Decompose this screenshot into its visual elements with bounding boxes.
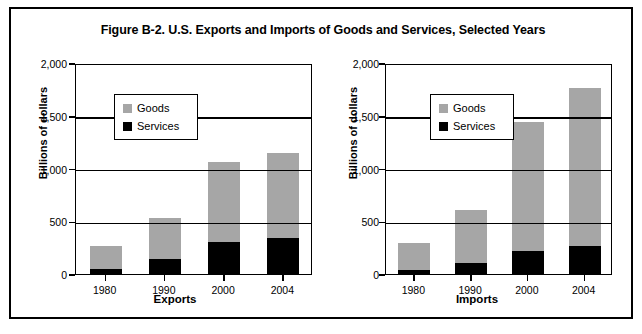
bar-segment-goods <box>455 210 487 263</box>
y-axis-tick-label: 1,000 <box>333 164 379 176</box>
bar-segment-goods <box>208 162 240 242</box>
legend-swatch-services-icon <box>439 122 448 131</box>
x-axis-tick <box>413 275 415 281</box>
x-axis-tick <box>164 275 166 281</box>
bar-segment-goods <box>90 246 122 269</box>
y-axis-tick <box>379 116 385 118</box>
y-axis-tick-label: 500 <box>25 216 67 228</box>
bar-segment-services <box>208 242 240 274</box>
x-axis-tick <box>584 275 586 281</box>
y-axis-tick-label: 500 <box>333 216 379 228</box>
stacked-bar <box>267 153 299 274</box>
legend-label-goods: Goods <box>137 103 169 114</box>
plot-area-exports: Goods Services <box>75 64 312 275</box>
x-axis-tick <box>282 275 284 281</box>
bar-segment-services <box>569 246 601 274</box>
legend-label-services: Services <box>137 121 179 132</box>
stacked-bar <box>149 218 181 274</box>
legend-imports: Goods Services <box>430 94 514 140</box>
legend-swatch-goods-icon <box>439 104 448 113</box>
figure-frame: Figure B-2. U.S. Exports and Imports of … <box>9 7 633 319</box>
x-axis-title-imports: Imports <box>327 293 627 305</box>
y-axis-tick <box>379 169 385 171</box>
chart-panel-exports: Billions of dollars Goods Services 05001… <box>25 49 325 313</box>
bar-segment-services <box>267 238 299 274</box>
y-axis-tick-label: 0 <box>333 269 379 281</box>
y-axis-tick <box>69 274 75 276</box>
y-axis-tick <box>69 222 75 224</box>
y-axis-tick-label: 1,500 <box>333 111 379 123</box>
gridline <box>386 223 611 225</box>
y-axis-title-imports: Billions of dollars <box>347 63 359 203</box>
stacked-bar <box>455 210 487 274</box>
y-axis-tick <box>69 116 75 118</box>
y-axis-tick <box>69 63 75 65</box>
legend-item-goods: Goods <box>439 101 504 116</box>
legend-item-services: Services <box>439 119 504 134</box>
legend-label-services: Services <box>453 121 495 132</box>
y-axis-tick-label: 2,000 <box>333 58 379 70</box>
bar-segment-services <box>149 259 181 274</box>
x-axis-tick <box>527 275 529 281</box>
bar-segment-services <box>455 263 487 274</box>
legend-label-goods: Goods <box>453 103 485 114</box>
stacked-bar <box>512 122 544 274</box>
figure-title: Figure B-2. U.S. Exports and Imports of … <box>11 23 635 37</box>
y-axis-tick <box>69 169 75 171</box>
chart-panel-imports: Billions of dollars Goods Services 05001… <box>327 49 627 313</box>
bar-segment-services <box>512 251 544 274</box>
y-axis-tick <box>379 274 385 276</box>
bar-segment-goods <box>267 153 299 238</box>
y-axis-tick <box>379 63 385 65</box>
y-axis-tick-label: 2,000 <box>25 58 67 70</box>
x-axis-tick <box>470 275 472 281</box>
gridline <box>76 170 311 172</box>
legend-exports: Goods Services <box>114 94 198 140</box>
legend-swatch-services-icon <box>123 122 132 131</box>
y-axis-tick <box>379 222 385 224</box>
stacked-bar <box>90 246 122 274</box>
bar-segment-services <box>90 269 122 274</box>
bar-segment-goods <box>512 122 544 252</box>
x-axis-tick <box>223 275 225 281</box>
y-axis-tick-label: 1,500 <box>25 111 67 123</box>
x-axis-tick <box>105 275 107 281</box>
y-axis-tick-label: 0 <box>25 269 67 281</box>
legend-item-goods: Goods <box>123 101 188 116</box>
x-axis-title-exports: Exports <box>25 293 325 305</box>
stacked-bar <box>398 243 430 274</box>
legend-item-services: Services <box>123 119 188 134</box>
gridline <box>76 223 311 225</box>
legend-swatch-goods-icon <box>123 104 132 113</box>
bar-segment-services <box>398 270 430 274</box>
y-axis-tick-label: 1,000 <box>25 164 67 176</box>
gridline <box>386 170 611 172</box>
bar-segment-goods <box>398 243 430 269</box>
y-axis-title-exports: Billions of dollars <box>37 63 49 203</box>
stacked-bar <box>208 162 240 274</box>
plot-area-imports: Goods Services <box>385 64 612 275</box>
